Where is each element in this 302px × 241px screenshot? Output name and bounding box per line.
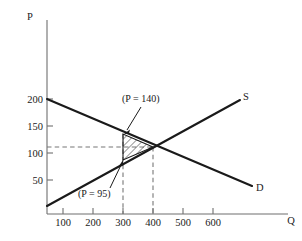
x-axis-label: Q (287, 215, 295, 226)
annotation-price-140: (P = 140) (122, 93, 160, 105)
y-tick-label-150: 150 (27, 121, 43, 132)
supply-demand-chart: P Q 200 150 100 50 100 200 300 400 500 6… (0, 0, 302, 241)
supply-curve[interactable] (47, 100, 240, 206)
supply-curve-label: S (243, 91, 249, 102)
x-tick-label-200: 200 (85, 217, 101, 228)
demand-curve[interactable] (47, 99, 252, 186)
y-tick-label-50: 50 (33, 175, 44, 186)
demand-curve-label: D (256, 182, 264, 193)
x-tick-label-400: 400 (145, 217, 161, 228)
y-tick-marks (47, 99, 53, 180)
annotation-95-arrowhead (119, 160, 123, 166)
x-tick-label-500: 500 (175, 217, 191, 228)
x-tick-label-600: 600 (205, 217, 221, 228)
annotation-140-leader-line (127, 107, 141, 130)
x-tick-label-100: 100 (55, 217, 71, 228)
y-axis-label: P (27, 11, 33, 22)
x-tick-marks (63, 208, 213, 214)
chart-canvas: P Q 200 150 100 50 100 200 300 400 500 6… (0, 0, 302, 241)
annotation-price-95: (P = 95) (78, 188, 111, 200)
y-tick-label-200: 200 (27, 94, 43, 105)
x-tick-label-300: 300 (115, 217, 131, 228)
y-tick-label-100: 100 (27, 148, 43, 159)
